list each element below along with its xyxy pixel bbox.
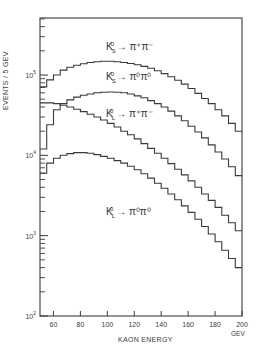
svg-text:60: 60 [50,321,58,328]
y-axis-ticks: 102103104105 [25,19,48,320]
plot-frame [40,18,242,316]
histogram-curves [40,61,242,267]
x-axis-title: KAON ENERGY [118,336,173,343]
svg-text:200: 200 [236,321,248,328]
y-axis-title: EVENTS / 5 GEV [2,51,9,110]
svg-text:100: 100 [101,321,113,328]
svg-text:105: 105 [25,69,36,79]
svg-text:80: 80 [77,321,85,328]
label-kl-pipi-charged: KL0 → π⁺π⁻ [106,108,153,121]
label-ks-pipi-neutral: KS0 → π⁰π⁰ [106,71,151,84]
x-axis-unit: GEV [231,330,245,337]
histogram-series-2 [40,92,242,176]
svg-text:120: 120 [128,321,140,328]
label-kl-pipi-neutral: KL0 → π⁰π⁰ [106,206,151,219]
svg-text:140: 140 [155,321,167,328]
svg-text:180: 180 [209,321,221,328]
svg-text:102: 102 [25,310,36,320]
label-ks-pipi-charged: KS0 → π⁺π⁻ [106,41,153,54]
svg-text:103: 103 [25,230,36,240]
x-axis-ticks: 6080100120140160180200 [50,311,248,328]
svg-text:104: 104 [25,149,36,159]
svg-text:160: 160 [182,321,194,328]
